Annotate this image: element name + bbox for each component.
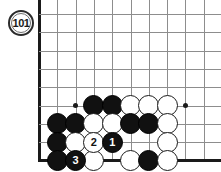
grid-line-vertical [204, 0, 205, 161]
grid-line-horizontal [39, 14, 221, 15]
move-number-label: 2 [91, 137, 97, 148]
move-stone-3[interactable]: 3 [65, 150, 86, 171]
board-edge-left [38, 0, 41, 162]
move-stone-1[interactable]: 1 [102, 132, 123, 153]
move-number-label: 3 [73, 155, 79, 166]
grid-line-horizontal [39, 32, 221, 33]
grid-line-horizontal [39, 87, 221, 88]
star-point [73, 103, 78, 108]
grid-line-vertical [185, 0, 186, 161]
grid-line-vertical [131, 0, 132, 161]
grid-line-horizontal [39, 51, 221, 52]
go-diagram: 213 101 [0, 0, 221, 172]
white-stone[interactable] [157, 150, 178, 171]
figure-number-label: 101 [13, 18, 30, 29]
grid-line-horizontal [39, 69, 221, 70]
figure-number-badge: 101 [8, 10, 34, 36]
grid-line-vertical [149, 0, 150, 161]
white-stone[interactable] [83, 150, 104, 171]
move-number-label: 1 [109, 137, 115, 148]
star-point [183, 103, 188, 108]
figure-number-ring: 101 [11, 13, 31, 33]
